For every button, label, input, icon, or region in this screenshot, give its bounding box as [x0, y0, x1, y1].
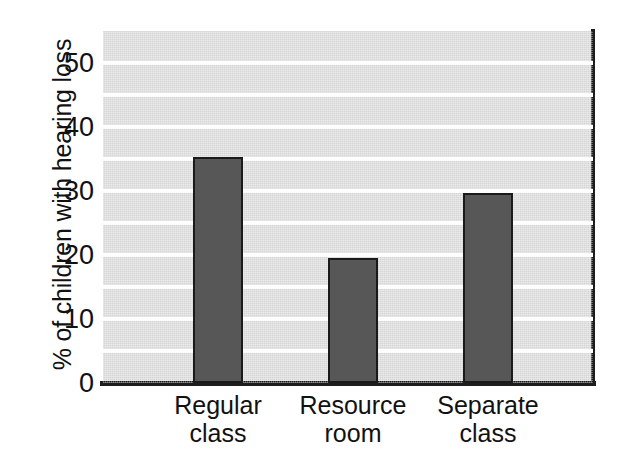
- gridline: [103, 61, 593, 65]
- plot-area: [103, 31, 593, 383]
- bar-chart-figure: % of children with hearing loss 01020304…: [0, 0, 624, 458]
- gridline: [103, 253, 593, 257]
- y-axis-tick-labels: 01020304050: [46, 0, 94, 458]
- gridline: [103, 125, 593, 129]
- y-tick-label: 10: [46, 306, 94, 333]
- bar: [193, 157, 243, 383]
- y-tick-label: 20: [46, 242, 94, 269]
- y-tick-label: 30: [46, 178, 94, 205]
- y-tick-label: 50: [46, 50, 94, 77]
- y-tick-label: 40: [46, 114, 94, 141]
- y-tick-label: 0: [46, 370, 94, 397]
- gridline: [103, 157, 593, 161]
- gridline: [103, 189, 593, 193]
- x-tick-label: Separate class: [398, 391, 578, 447]
- bar: [328, 258, 378, 383]
- bar: [463, 193, 513, 383]
- gridline: [103, 221, 593, 225]
- right-spine: [591, 29, 595, 383]
- gridline: [103, 93, 593, 97]
